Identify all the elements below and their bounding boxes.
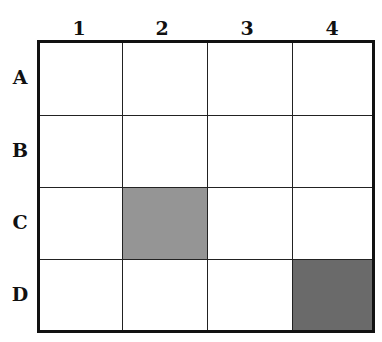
cell-a3 <box>208 43 293 116</box>
cell-a4 <box>293 43 372 116</box>
cell-b4 <box>293 116 372 188</box>
cell-b3 <box>208 116 293 188</box>
row-label-b: B <box>8 139 32 161</box>
column-label-3: 3 <box>205 17 289 39</box>
cell-a1 <box>40 43 123 116</box>
cell-c1 <box>40 188 123 260</box>
cell-b1 <box>40 116 123 188</box>
cell-d1 <box>40 260 123 330</box>
cell-a2 <box>123 43 208 116</box>
cell-d3 <box>208 260 293 330</box>
row-label-d: D <box>8 283 32 305</box>
row-label-a: A <box>8 66 32 88</box>
column-label-1: 1 <box>37 17 121 39</box>
row-label-c: C <box>8 211 32 233</box>
cell-d4 <box>293 260 372 330</box>
grid <box>37 40 375 333</box>
column-label-2: 2 <box>120 17 204 39</box>
cell-c2 <box>123 188 208 260</box>
cell-c4 <box>293 188 372 260</box>
cell-d2 <box>123 260 208 330</box>
cell-c3 <box>208 188 293 260</box>
cell-b2 <box>123 116 208 188</box>
column-label-4: 4 <box>290 17 374 39</box>
